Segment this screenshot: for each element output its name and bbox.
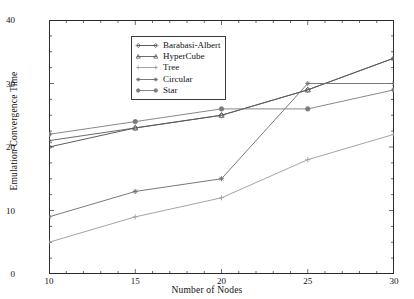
legend-label: HyperCube xyxy=(163,51,205,62)
legend-item: HyperCube xyxy=(135,51,220,62)
y-axis-title: Emulation Convergence Time xyxy=(9,31,19,231)
line-chart-figure: 40 30 20 10 0 10 15 20 25 30 Number of N… xyxy=(0,0,414,299)
legend-item: Circular xyxy=(135,74,220,85)
legend-item: Star xyxy=(135,85,220,96)
legend-label: Tree xyxy=(163,62,179,73)
legend-item: Tree xyxy=(135,62,220,73)
y-tick-label: 0 xyxy=(11,270,16,279)
legend-label: Barabasi-Albert xyxy=(163,40,220,51)
legend: Barabasi-Albert HyperCube Tree Circular … xyxy=(131,36,226,100)
y-tick-label: 40 xyxy=(6,16,15,25)
legend-label: Circular xyxy=(163,74,193,85)
legend-marker-hypercube xyxy=(135,51,159,62)
legend-marker-circular xyxy=(135,74,159,85)
x-axis-title: Number of Nodes xyxy=(0,285,414,295)
legend-item: Barabasi-Albert xyxy=(135,40,220,51)
legend-marker-barabasi-albert xyxy=(135,40,159,51)
legend-label: Star xyxy=(163,85,178,96)
legend-marker-tree xyxy=(135,62,159,73)
legend-marker-star xyxy=(135,85,159,96)
